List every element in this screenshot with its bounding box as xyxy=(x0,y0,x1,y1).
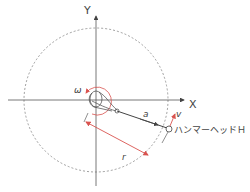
hammer-head-label: ハンマーヘッドＨ xyxy=(174,125,246,135)
v-label: v xyxy=(176,109,182,119)
thrower-figure xyxy=(89,91,119,113)
r-label: r xyxy=(122,152,127,162)
a-label: a xyxy=(143,109,149,119)
y-axis-label: Y xyxy=(83,4,91,17)
acceleration-arrow xyxy=(140,119,158,125)
radius-end-tick xyxy=(162,132,168,143)
hammer-throw-diagram: Y X ω a ハンマーヘッドＨ v r xyxy=(0,0,250,192)
hammer-head xyxy=(166,126,172,132)
x-axis-label: X xyxy=(189,98,197,111)
radius-dimension-arrow xyxy=(86,122,148,155)
radius-dimension-tick xyxy=(84,113,88,122)
omega-rotation-arc xyxy=(86,87,111,115)
omega-label: ω xyxy=(74,85,82,95)
